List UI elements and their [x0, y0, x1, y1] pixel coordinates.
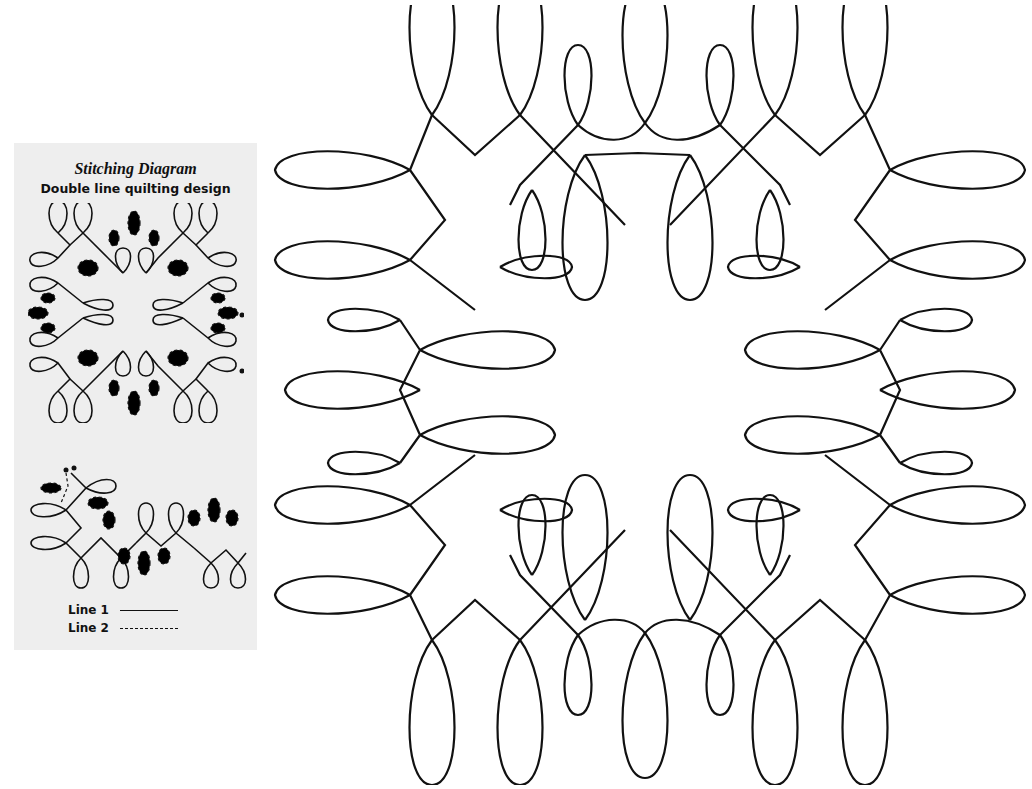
dashed-line-swatch-icon: [120, 628, 178, 629]
quilting-design-pattern: [270, 5, 1030, 785]
legend: Line 1 Line 2: [68, 601, 178, 637]
panel-subtitle: Double line quilting design: [14, 181, 257, 196]
legend-line-2: Line 2: [68, 619, 178, 637]
legend-line-1: Line 1: [68, 601, 178, 619]
solid-line-swatch-icon: [120, 610, 178, 611]
panel-title: Stitching Diagram: [14, 160, 257, 178]
legend-line-2-label: Line 2: [68, 621, 120, 635]
stitching-diagram-panel: Stitching Diagram Double line quilting d…: [14, 143, 257, 650]
stitch-sequence-diagram: [26, 458, 248, 598]
legend-line-1-label: Line 1: [68, 603, 120, 617]
full-stitch-diagram: [28, 203, 244, 423]
